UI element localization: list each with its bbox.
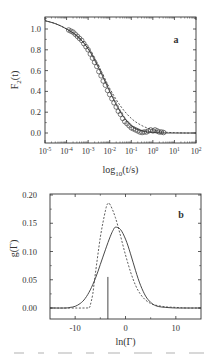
y-tick-label: 0.0 <box>30 128 41 138</box>
caption-fragment <box>14 352 204 356</box>
panel-a-correlation-function: 0.00.20.40.60.81.010-510-410-310-210-110… <box>9 17 202 178</box>
x-tick-label: 10-3 <box>82 146 95 157</box>
x-tick-label: 10-4 <box>60 146 73 157</box>
y-tick-label: 0.05 <box>22 275 37 285</box>
x-tick-label: 100 <box>147 146 158 157</box>
x-tick-label: 102 <box>191 146 202 157</box>
solid-curve <box>50 227 201 308</box>
x-axis-label: ln(Γ) <box>115 336 135 348</box>
y-tick-label: 0.8 <box>30 45 41 55</box>
y-tick-label: 0.6 <box>30 66 41 76</box>
x-axis-label: log10(t/s) <box>103 164 139 178</box>
panel-label-b: b <box>178 209 184 220</box>
y-tick-label: 0.20 <box>22 190 37 200</box>
x-tick-label: -10 <box>69 323 80 333</box>
y-tick-label: 1.0 <box>30 24 41 34</box>
x-tick-label: 10 <box>172 323 181 333</box>
x-tick-label: 10-1 <box>125 146 138 157</box>
y-tick-label: 0.4 <box>30 86 41 96</box>
y-axis-label: F2(t) <box>9 71 23 90</box>
x-tick-label: 10-2 <box>103 146 116 157</box>
y-axis-label: g(Γ) <box>8 240 20 257</box>
figure: 0.00.20.40.60.81.010-510-410-310-210-110… <box>0 0 213 363</box>
y-tick-label: 0.10 <box>22 247 37 257</box>
x-tick-label: 10-5 <box>39 146 52 157</box>
x-tick-label: 101 <box>169 146 180 157</box>
y-tick-label: 0.2 <box>30 107 41 117</box>
panel-b-distribution: 0.000.050.100.150.20-10010ln(Γ)g(Γ)b <box>8 190 201 348</box>
x-tick-label: 0 <box>123 323 127 333</box>
panel-label-a: a <box>174 34 179 45</box>
y-tick-label: 0.15 <box>22 218 37 228</box>
y-tick-label: 0.00 <box>22 303 37 313</box>
